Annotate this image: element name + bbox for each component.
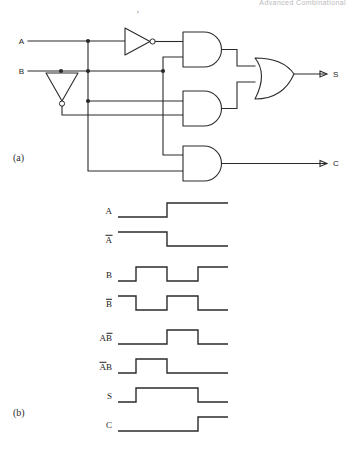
plain-char: B [106, 362, 112, 372]
overline-char: B [106, 333, 112, 343]
waveform-A [118, 203, 228, 217]
waveform-B-bar [118, 296, 228, 310]
waveform-Abar-B [118, 359, 228, 373]
waveform-S [118, 388, 228, 402]
plain-char: C [106, 420, 112, 430]
waveform-A-bar [118, 232, 228, 246]
timing-label-C: C [106, 420, 112, 430]
timing-label-A: A [106, 206, 113, 216]
waveform-B [118, 267, 228, 281]
waveform-A-Bbar [118, 330, 228, 344]
timing-label-A-Bbar: AB [99, 333, 112, 343]
waveform-C [118, 417, 228, 431]
timing-label-B-bar: B [106, 299, 112, 309]
timing-label-Abar-B: AB [99, 362, 112, 372]
overline-char: A [106, 235, 113, 245]
timing-label-B: B [106, 270, 112, 280]
timing-label-A-bar: A [106, 235, 113, 245]
timing-diagram [0, 0, 350, 449]
figure-page: Advanced Combinational ’ [0, 0, 350, 449]
plain-char: B [106, 270, 112, 280]
plain-char: S [107, 391, 112, 401]
timing-label-S: S [107, 391, 112, 401]
overline-char: B [106, 299, 112, 309]
figure-label-b: (b) [13, 407, 25, 418]
plain-char: A [106, 206, 113, 216]
